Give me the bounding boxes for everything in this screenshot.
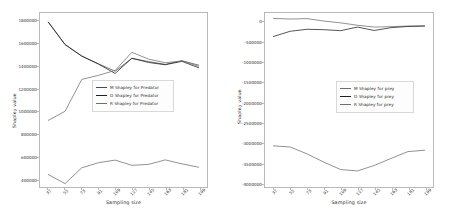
x-tick-mark [392,188,393,190]
y-tick-label: -1500000 [220,80,262,85]
x-tick-label: 181 [406,187,415,196]
x-tick-label: 181 [180,187,189,196]
y-tick-mark [37,157,39,158]
x-tick-mark [290,188,291,190]
y-tick-label: 1200000 [0,86,37,91]
y-tick-label: 1400000 [0,63,37,68]
series-line [273,26,424,36]
x-tick-label: 127 [355,187,364,196]
y-tick-mark [37,180,39,181]
legend-item[interactable]: R Shapley for Predator [96,100,170,108]
legend-item[interactable]: D Shapley for prey [340,93,410,101]
y-tick-mark [262,143,264,144]
chart-panel-right: Shapley value Sampling size -4000000-350… [226,0,451,221]
y-axis-label-right: Shapley value [237,89,242,124]
x-tick-mark [132,188,133,190]
legend-swatch-r-shapley-prey [340,104,351,105]
legend-label-r-shapley-predator: R Shapley for Predator [110,101,158,106]
legend-swatch-m-shapley-prey [340,88,351,89]
y-tick-label: 0 [220,19,262,24]
x-tick-mark [409,188,410,190]
x-tick-mark [166,188,167,190]
y-tick-label: 1600000 [0,40,37,45]
y-tick-mark [262,184,264,185]
x-tick-mark [98,188,99,190]
series-line [48,22,198,71]
legend-item[interactable]: M Shapley for Predator [96,84,170,92]
legend-label-r-shapley-prey: R Shapley for prey [354,102,394,107]
x-tick-mark [149,188,150,190]
y-tick-label: -3500000 [220,161,262,166]
y-tick-label: -1000000 [220,60,262,65]
series-line [48,160,198,184]
x-tick-mark [273,188,274,190]
x-tick-mark [324,188,325,190]
x-tick-label: 199 [197,187,206,196]
legend-item[interactable]: M Shapley for prey [340,85,410,93]
x-tick-label: 163 [389,187,398,196]
y-tick-mark [37,134,39,135]
x-tick-mark [307,188,308,190]
legend-right: M Shapley for prey D Shapley for prey R … [336,81,414,113]
legend-swatch-d-shapley-predator [96,95,107,96]
y-tick-label: 1000000 [0,109,37,114]
y-tick-mark [37,89,39,90]
x-tick-label: 127 [129,187,138,196]
x-tick-mark [375,188,376,190]
x-tick-mark [47,188,48,190]
x-tick-label: 199 [423,187,432,196]
chart-panel-left: Shapley value Sampling size 400000600000… [0,0,225,221]
x-tick-label: 145 [146,187,155,196]
y-tick-label: -3000000 [220,141,262,146]
x-tick-mark [115,188,116,190]
figure-canvas: Shapley value Sampling size 400000600000… [0,0,451,221]
x-tick-mark [426,188,427,190]
series-line [273,18,424,27]
y-tick-label: -4000000 [220,181,262,186]
y-tick-mark [262,42,264,43]
y-tick-label: -500000 [220,39,262,44]
x-tick-label: 163 [163,187,172,196]
x-axis-label-right: Sampling size [264,200,434,205]
y-tick-label: -2000000 [220,100,262,105]
y-tick-mark [262,164,264,165]
x-tick-label: 109 [338,187,347,196]
legend-label-d-shapley-prey: D Shapley for prey [354,94,394,99]
x-tick-mark [341,188,342,190]
y-tick-mark [37,111,39,112]
y-tick-mark [262,103,264,104]
x-tick-label: 109 [112,187,121,196]
x-axis-label-left: Sampling size [39,200,208,205]
y-tick-mark [262,123,264,124]
y-tick-label: 1800000 [0,18,37,23]
y-tick-mark [262,21,264,22]
x-tick-label: 145 [372,187,381,196]
x-tick-mark [64,188,65,190]
y-tick-mark [37,43,39,44]
legend-label-m-shapley-predator: M Shapley for Predator [110,85,159,90]
y-tick-label: -2500000 [220,120,262,125]
y-tick-mark [262,82,264,83]
series-line [273,146,424,171]
x-tick-mark [183,188,184,190]
y-tick-label: 800000 [0,132,37,137]
legend-item[interactable]: D Shapley for Predator [96,92,170,100]
x-tick-mark [81,188,82,190]
y-tick-mark [37,20,39,21]
legend-item[interactable]: R Shapley for prey [340,101,410,109]
y-tick-mark [37,66,39,67]
series-line [48,22,198,73]
legend-label-m-shapley-prey: M Shapley for prey [354,86,394,91]
legend-left: M Shapley for Predator D Shapley for Pre… [92,80,174,112]
legend-label-d-shapley-predator: D Shapley for Predator [110,93,159,98]
x-tick-mark [200,188,201,190]
y-tick-label: 600000 [0,155,37,160]
y-tick-mark [262,62,264,63]
legend-swatch-r-shapley-predator [96,103,107,104]
x-tick-mark [358,188,359,190]
legend-swatch-d-shapley-prey [340,96,351,97]
legend-swatch-m-shapley-predator [96,87,107,88]
y-tick-label: 400000 [0,178,37,183]
